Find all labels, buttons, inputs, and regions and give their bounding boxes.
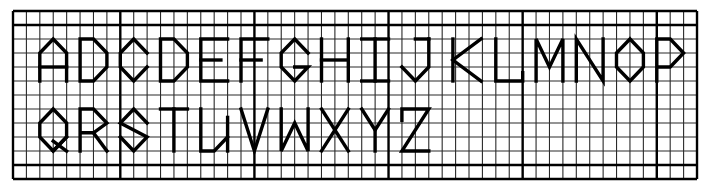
letter-stroke xyxy=(453,39,481,81)
letter-k: K xyxy=(453,39,481,81)
letter-t: T xyxy=(161,109,188,151)
lettering-grid: ABCDEFGHIJKLMNOPQRSTUVWXYZ xyxy=(0,0,724,193)
letter-stroke xyxy=(94,133,107,151)
letter-i: I xyxy=(362,39,389,81)
grid-lines xyxy=(13,11,697,179)
